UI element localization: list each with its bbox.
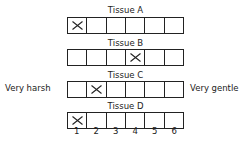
scale-cell — [126, 50, 145, 65]
scale-cell — [145, 50, 164, 65]
scale-number: 5 — [145, 126, 165, 136]
tissue-d-title: Tissue D — [67, 101, 184, 111]
scale-number: 1 — [67, 126, 87, 136]
scale-cell — [68, 82, 87, 97]
scale-number: 6 — [165, 126, 185, 136]
x-mark-icon — [72, 21, 83, 30]
scale-cell — [107, 82, 126, 97]
scale-cell — [87, 18, 106, 33]
scale-cell — [165, 18, 183, 33]
x-mark-icon — [72, 116, 83, 125]
scale-cell — [68, 18, 87, 33]
tissue-b-scale — [67, 49, 184, 66]
x-mark-icon — [130, 53, 141, 62]
scale-cell — [126, 82, 145, 97]
scale-cell — [165, 82, 183, 97]
scale-number: 4 — [126, 126, 146, 136]
scale-cell — [68, 50, 87, 65]
tissue-a-title: Tissue A — [67, 5, 184, 15]
tissue-c-title: Tissue C — [67, 70, 184, 80]
scale-cell — [107, 50, 126, 65]
left-anchor-label: Very harsh — [5, 83, 51, 93]
scale-cell — [145, 18, 164, 33]
scale-cell — [87, 82, 106, 97]
scale-cell — [165, 50, 183, 65]
scale-numbers: 1 2 3 4 5 6 — [67, 126, 184, 136]
tissue-c-scale — [67, 81, 184, 98]
scale-number: 2 — [87, 126, 107, 136]
tissue-b-title: Tissue B — [67, 38, 184, 48]
scale-cell — [126, 18, 145, 33]
tissue-a-scale — [67, 17, 184, 34]
right-anchor-label: Very gentle — [190, 83, 239, 93]
scale-number: 3 — [106, 126, 126, 136]
scale-cell — [145, 82, 164, 97]
scale-cell — [87, 50, 106, 65]
scale-cell — [107, 18, 126, 33]
x-mark-icon — [91, 85, 102, 94]
